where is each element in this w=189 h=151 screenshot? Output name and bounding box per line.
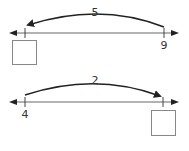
right-arrow-icon (171, 30, 179, 36)
known-value-label: 9 (161, 39, 168, 52)
number-line-2: 2 4 (9, 74, 179, 136)
number-line-diagram: 5 9 2 4 (0, 0, 189, 151)
left-arrow-icon (9, 99, 17, 105)
answer-box[interactable] (13, 41, 37, 65)
left-arrow-icon (9, 30, 17, 36)
right-arrow-icon (171, 99, 179, 105)
number-line-1: 5 9 (9, 6, 179, 65)
jump-label: 5 (92, 6, 99, 19)
answer-box[interactable] (152, 111, 176, 136)
known-value-label: 4 (22, 108, 29, 121)
jump-label: 2 (92, 74, 99, 87)
